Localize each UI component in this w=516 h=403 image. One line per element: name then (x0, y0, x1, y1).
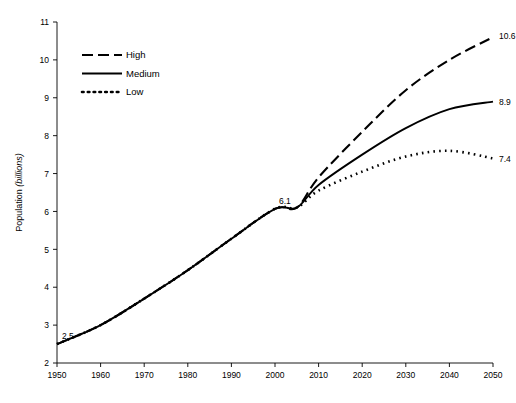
x-tick-label-2050: 2050 (484, 370, 503, 380)
y-tick-label-4: 4 (44, 282, 49, 292)
y-tick-label-8: 8 (44, 131, 49, 141)
x-tick-label-2020: 2020 (353, 370, 372, 380)
annotation-2-5: 2.5 (62, 331, 74, 341)
x-tick-label-2030: 2030 (396, 370, 415, 380)
x-tick-label-1950: 1950 (48, 370, 67, 380)
annotation-10-6: 10.6 (499, 31, 516, 41)
chart-canvas: 2345678910111950196019701980199020002010… (0, 0, 516, 403)
series-line-high (57, 37, 493, 344)
x-tick-label-2040: 2040 (440, 370, 459, 380)
population-projection-chart: 2345678910111950196019701980199020002010… (0, 0, 516, 403)
legend-label-low: Low (126, 86, 144, 97)
y-tick-label-3: 3 (44, 320, 49, 330)
y-tick-label-5: 5 (44, 245, 49, 255)
y-tick-label-9: 9 (44, 93, 49, 103)
x-tick-label-1960: 1960 (91, 370, 110, 380)
legend-label-medium: Medium (126, 68, 160, 79)
annotation-7-4: 7.4 (499, 154, 511, 164)
series-line-low (57, 151, 493, 344)
annotation-8-9: 8.9 (499, 97, 511, 107)
y-tick-label-7: 7 (44, 169, 49, 179)
x-tick-label-2000: 2000 (266, 370, 285, 380)
series-line-medium (57, 102, 493, 344)
x-tick-label-1990: 1990 (222, 370, 241, 380)
annotation-6-1: 6.1 (279, 196, 291, 206)
y-tick-label-2: 2 (44, 358, 49, 368)
y-tick-label-11: 11 (40, 17, 49, 27)
x-tick-label-1980: 1980 (178, 370, 197, 380)
x-tick-label-2010: 2010 (309, 370, 328, 380)
y-axis-title: Population (billions) (14, 153, 24, 232)
legend-label-high: High (126, 49, 146, 60)
y-tick-label-10: 10 (40, 55, 50, 65)
y-tick-label-6: 6 (44, 207, 49, 217)
x-tick-label-1970: 1970 (135, 370, 154, 380)
